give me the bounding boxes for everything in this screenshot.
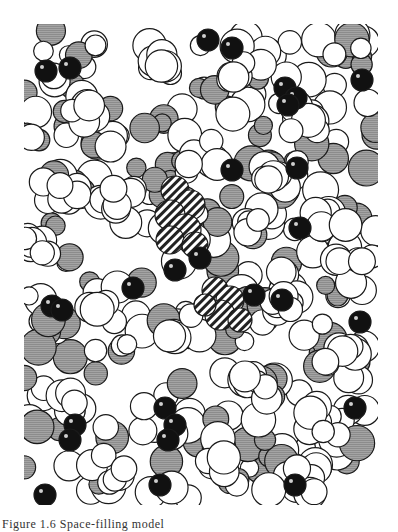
black-atom [157, 429, 179, 451]
atom-highlight [64, 62, 68, 66]
atom-highlight [169, 264, 173, 268]
white-atom [323, 43, 346, 66]
atom-highlight [159, 402, 163, 406]
white-atom [34, 41, 54, 61]
atom-highlight [39, 489, 43, 493]
white-atom [18, 124, 44, 150]
gray-atom [36, 16, 65, 45]
atom-highlight [194, 252, 198, 256]
white-atom [145, 50, 177, 82]
white-atom [80, 292, 114, 326]
gray-atom [220, 185, 244, 209]
black-atom [271, 289, 293, 311]
hatched-atom [156, 226, 184, 254]
atom-highlight [202, 34, 206, 38]
white-atom [84, 339, 106, 361]
atom-highlight [349, 402, 353, 406]
atom-highlight [226, 42, 230, 46]
white-atom [218, 62, 248, 92]
atom-highlight [279, 82, 283, 86]
black-atom [243, 284, 265, 306]
black-atom [164, 259, 186, 281]
white-atom [279, 119, 303, 143]
white-atom [129, 417, 157, 445]
black-atom [51, 299, 73, 321]
white-atom [93, 415, 118, 440]
black-atom [284, 474, 306, 496]
atom-layer [11, 16, 391, 511]
atom-highlight [291, 162, 295, 166]
atom-highlight [248, 289, 252, 293]
black-atom [59, 429, 81, 451]
white-atom [348, 248, 375, 275]
white-atom [247, 209, 270, 232]
white-atom [312, 314, 332, 334]
atom-highlight [127, 282, 131, 286]
white-atom [361, 216, 391, 246]
atom-highlight [64, 434, 68, 438]
atom-highlight [40, 65, 44, 69]
atom-highlight [354, 316, 358, 320]
gray-atom [11, 365, 36, 390]
white-atom [175, 150, 202, 177]
black-atom [59, 57, 81, 79]
black-atom [344, 397, 366, 419]
white-atom [329, 209, 362, 242]
white-atom [354, 89, 381, 116]
white-atom [207, 441, 240, 474]
white-atom [153, 320, 185, 352]
white-atom [111, 456, 137, 482]
black-atom [221, 159, 243, 181]
white-atom [216, 97, 250, 131]
white-atom [20, 287, 38, 305]
white-atom [100, 175, 127, 202]
atom-highlight [276, 294, 280, 298]
gray-atom [254, 116, 272, 134]
white-atom [312, 420, 334, 442]
atom-highlight [294, 222, 298, 226]
black-atom [277, 94, 299, 116]
black-atom [286, 157, 308, 179]
black-atom [351, 69, 373, 91]
black-atom [149, 474, 171, 496]
white-atom [95, 131, 126, 162]
white-atom [74, 90, 105, 121]
black-atom [34, 484, 56, 506]
gray-atom [12, 456, 35, 479]
black-atom [189, 247, 211, 269]
black-atom [122, 277, 144, 299]
atom-highlight [289, 479, 293, 483]
atom-highlight [154, 479, 158, 483]
atom-highlight [162, 434, 166, 438]
white-atom [117, 335, 136, 354]
white-atom [62, 390, 88, 416]
white-atom [230, 361, 261, 392]
gray-atom [317, 276, 335, 294]
white-atom [252, 473, 286, 507]
white-atom [278, 31, 301, 54]
gray-atom [348, 150, 384, 186]
white-atom [130, 393, 157, 420]
atom-highlight [226, 164, 230, 168]
atom-highlight [56, 304, 60, 308]
black-atom [197, 29, 219, 51]
black-atom [349, 311, 371, 333]
white-atom [85, 35, 106, 56]
white-atom [351, 38, 371, 58]
gray-atom [130, 113, 159, 142]
gray-atom [84, 362, 107, 385]
hatched-atom [194, 294, 216, 316]
black-atom [221, 37, 243, 59]
white-atom [312, 348, 339, 375]
white-atom [47, 173, 73, 199]
atom-highlight [169, 419, 173, 423]
white-atom [255, 166, 282, 193]
black-atom [35, 60, 57, 82]
atom-highlight [282, 99, 286, 103]
white-atom [30, 241, 54, 265]
figure-caption: Figure 1.6 Space-filling model [2, 517, 164, 532]
gray-atom [361, 113, 391, 143]
black-atom [289, 217, 311, 239]
gray-atom [20, 410, 54, 444]
